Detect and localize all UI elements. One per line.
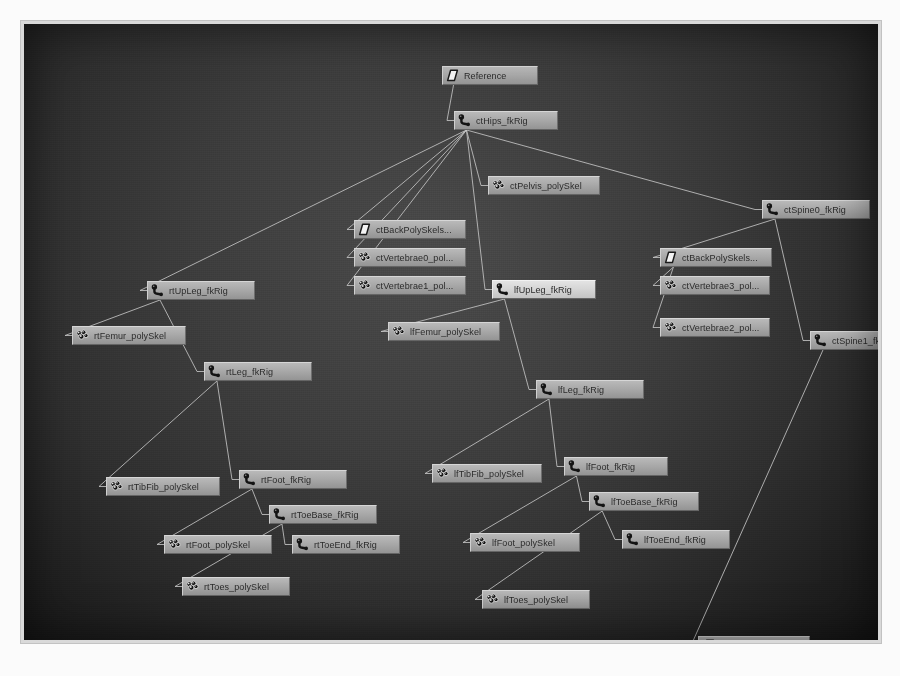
poly-mesh-icon — [75, 328, 90, 343]
graph-node-rtFemur[interactable]: rtFemur_polySkel — [72, 326, 186, 345]
graph-node-rtToeEnd[interactable]: rtToeEnd_fkRig — [292, 535, 400, 554]
graph-node-label: ctSpine1_fkRig — [832, 336, 878, 346]
poly-mesh-icon — [185, 579, 200, 594]
poly-mesh-icon — [473, 535, 488, 550]
graph-node-label: lfLeg_fkRig — [558, 385, 604, 395]
graph-node-label: rtFemur_polySkel — [94, 331, 166, 341]
poly-mesh-icon — [663, 278, 678, 293]
poly-mesh-icon — [485, 592, 500, 607]
graph-node-rtToes_poly[interactable]: rtToes_polySkel — [182, 577, 290, 596]
graph-node-label: ctVertebrae0_pol... — [376, 253, 453, 263]
joint-icon — [242, 472, 257, 487]
graph-node-label: rtFoot_fkRig — [261, 475, 311, 485]
joint-icon — [813, 333, 828, 348]
graph-node-label: ctVertebrae2_pol... — [682, 323, 759, 333]
poly-mesh-icon — [357, 278, 372, 293]
graph-node-label: rtUpLeg_fkRig — [169, 286, 228, 296]
graph-node-label: lfToeEnd_fkRig — [644, 535, 706, 545]
graph-node-label: rtToeBase_fkRig — [291, 510, 359, 520]
graph-node-rtFoot_poly[interactable]: rtFoot_polySkel — [164, 535, 272, 554]
graph-node-label: lfToes_polySkel — [504, 595, 568, 605]
joint-icon — [592, 494, 607, 509]
poly-mesh-icon — [491, 178, 506, 193]
poly-mesh-icon — [435, 466, 450, 481]
graph-node-label: lfFoot_fkRig — [586, 462, 635, 472]
poly-mesh-icon — [391, 324, 406, 339]
joint-icon — [457, 113, 472, 128]
joint-icon — [207, 364, 222, 379]
poly-mesh-icon — [109, 479, 124, 494]
graph-node-lfFemur[interactable]: lfFemur_polySkel — [388, 322, 500, 341]
poly-mesh-icon — [357, 250, 372, 265]
graph-node-ctBackPolySkel0[interactable]: ctBackPolySkels... — [354, 220, 466, 239]
graph-node-lfTibFib[interactable]: lfTibFib_polySkel — [432, 464, 542, 483]
graph-node-label: ctVertebrae1_pol... — [376, 281, 453, 291]
graph-node-label: rtToes_polySkel — [204, 582, 269, 592]
graph-node-rtTibFib[interactable]: rtTibFib_polySkel — [106, 477, 220, 496]
joint-icon — [295, 537, 310, 552]
graph-node-rtToeBase[interactable]: rtToeBase_fkRig — [269, 505, 377, 524]
graph-node-label: lfUpLeg_fkRig — [514, 285, 572, 295]
graph-node-label: rtToeEnd_fkRig — [314, 540, 377, 550]
graph-node-label: Reference — [464, 71, 506, 81]
graph-node-lfToes_poly[interactable]: lfToes_polySkel — [482, 590, 590, 609]
graph-node-ctBackPolySkel2[interactable]: ctBackPolySkels... — [698, 636, 810, 640]
graph-node-label: ctPelvis_polySkel — [510, 181, 582, 191]
graph-node-label: rtLeg_fkRig — [226, 367, 273, 377]
joint-icon — [765, 202, 780, 217]
reference-plane-icon — [701, 638, 716, 640]
joint-icon — [539, 382, 554, 397]
graph-node-rtFoot[interactable]: rtFoot_fkRig — [239, 470, 347, 489]
graph-node-ctHips[interactable]: ctHips_fkRig — [454, 111, 558, 130]
graph-node-ctVertebrae2[interactable]: ctVertebrae2_pol... — [660, 318, 770, 337]
joint-icon — [272, 507, 287, 522]
poly-mesh-icon — [663, 320, 678, 335]
node-layer: ReferencectHips_fkRigctPelvis_polySkelct… — [24, 24, 878, 640]
graph-node-lfLeg[interactable]: lfLeg_fkRig — [536, 380, 644, 399]
joint-icon — [495, 282, 510, 297]
graph-node-ctPelvis[interactable]: ctPelvis_polySkel — [488, 176, 600, 195]
graph-node-ctVertebrae0[interactable]: ctVertebrae0_pol... — [354, 248, 466, 267]
graph-node-ctVertebrae1[interactable]: ctVertebrae1_pol... — [354, 276, 466, 295]
graph-canvas-frame: ReferencectHips_fkRigctPelvis_polySkelct… — [20, 20, 882, 644]
graph-canvas[interactable]: ReferencectHips_fkRigctPelvis_polySkelct… — [24, 24, 878, 640]
graph-node-label: lfTibFib_polySkel — [454, 469, 524, 479]
reference-plane-icon — [445, 68, 460, 83]
graph-node-label: lfFemur_polySkel — [410, 327, 481, 337]
graph-node-ctVertebrae3[interactable]: ctVertebrae3_pol... — [660, 276, 770, 295]
reference-plane-icon — [357, 222, 372, 237]
graph-node-ctBackPolySkel1[interactable]: ctBackPolySkels... — [660, 248, 772, 267]
graph-node-reference[interactable]: Reference — [442, 66, 538, 85]
graph-node-label: ctVertebrae3_pol... — [682, 281, 759, 291]
poly-mesh-icon — [167, 537, 182, 552]
graph-node-label: ctBackPolySkels... — [376, 225, 452, 235]
graph-node-label: ctBackPolySkels... — [682, 253, 758, 263]
hypergraph-window: ReferencectHips_fkRigctPelvis_polySkelct… — [0, 0, 900, 676]
joint-icon — [625, 532, 640, 547]
graph-node-label: lfFoot_polySkel — [492, 538, 555, 548]
joint-icon — [567, 459, 582, 474]
graph-node-label: rtFoot_polySkel — [186, 540, 250, 550]
reference-plane-icon — [663, 250, 678, 265]
graph-node-label: ctHips_fkRig — [476, 116, 528, 126]
graph-node-lfFoot_poly[interactable]: lfFoot_polySkel — [470, 533, 580, 552]
graph-node-lfToeBase[interactable]: lfToeBase_fkRig — [589, 492, 699, 511]
graph-node-lfFoot[interactable]: lfFoot_fkRig — [564, 457, 668, 476]
graph-node-ctSpine0[interactable]: ctSpine0_fkRig — [762, 200, 870, 219]
graph-node-ctSpine1[interactable]: ctSpine1_fkRig — [810, 331, 878, 350]
graph-node-label: lfToeBase_fkRig — [611, 497, 678, 507]
graph-node-lfToeEnd[interactable]: lfToeEnd_fkRig — [622, 530, 730, 549]
graph-node-rtLeg[interactable]: rtLeg_fkRig — [204, 362, 312, 381]
graph-node-label: ctSpine0_fkRig — [784, 205, 846, 215]
joint-icon — [150, 283, 165, 298]
graph-node-lfUpLeg[interactable]: lfUpLeg_fkRig — [492, 280, 596, 299]
graph-node-label: rtTibFib_polySkel — [128, 482, 199, 492]
graph-node-rtUpLeg[interactable]: rtUpLeg_fkRig — [147, 281, 255, 300]
